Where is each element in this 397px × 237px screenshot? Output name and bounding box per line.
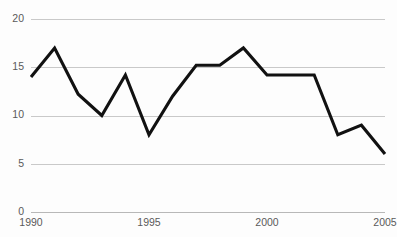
line-chart: 05101520 1990199520002005: [0, 0, 397, 237]
chart-plot-area: 05101520 1990199520002005: [0, 0, 397, 237]
y-tick-label-15: 15: [12, 60, 24, 72]
y-tick-label-10: 10: [12, 108, 24, 120]
x-tick-label-1990: 1990: [19, 216, 43, 228]
series-line-1: [31, 48, 385, 154]
data-series-group: [31, 48, 385, 154]
x-tick-label-2000: 2000: [255, 216, 279, 228]
x-axis-tick-labels: 1990199520002005: [19, 216, 397, 228]
y-tick-label-0: 0: [18, 205, 24, 217]
y-tick-label-5: 5: [18, 157, 24, 169]
y-axis-tick-labels: 05101520: [12, 12, 24, 217]
x-tick-label-1995: 1995: [137, 216, 161, 228]
x-tick-label-2005: 2005: [373, 216, 397, 228]
y-tick-label-20: 20: [12, 12, 24, 24]
